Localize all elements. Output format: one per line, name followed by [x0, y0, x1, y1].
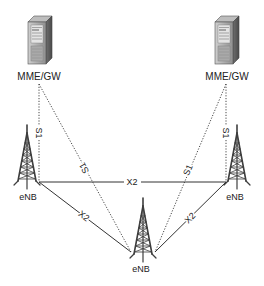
s1-left-vertical-label: S1 — [34, 127, 44, 138]
mme-gw-right-label: MME/GW — [205, 71, 249, 82]
s1-links — [39, 84, 226, 252]
x2-left-label: X2 — [77, 209, 92, 224]
server-icon-left — [28, 16, 52, 64]
s1-left-diagonal-label: S1 — [77, 161, 91, 175]
s1-right-diagonal-label: S1 — [181, 163, 195, 177]
enb-center-label: eNB — [132, 264, 150, 274]
mme-gw-left-label: MME/GW — [17, 71, 61, 82]
server-icon-right — [215, 16, 239, 64]
x2-top-label: X2 — [126, 177, 137, 187]
s1-right-vertical-label: S1 — [221, 127, 231, 138]
lte-network-diagram: MME/GW MME/GW eNB eNB eNB S1 S1 S1 S1 X2… — [0, 0, 264, 286]
enb-left-label: eNB — [19, 192, 37, 202]
enb-right-label: eNB — [226, 192, 244, 202]
x2-links — [39, 182, 226, 252]
cell-tower-icon-center — [130, 198, 156, 262]
